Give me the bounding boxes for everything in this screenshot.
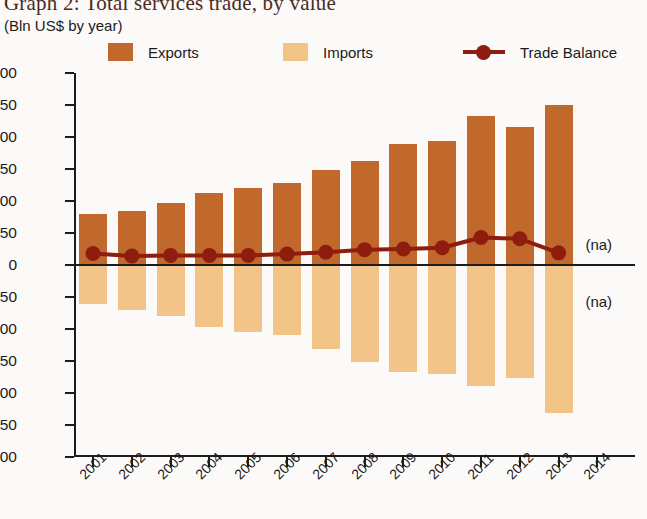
legend-item-exports: Exports (108, 41, 199, 63)
na-annotation-exports: (na) (585, 236, 612, 253)
legend-label: Trade Balance (520, 44, 617, 61)
legend-item-imports: Imports (283, 41, 373, 63)
y-axis-tick-label: −150 (0, 352, 17, 370)
y-axis-tick-label: −50 (0, 288, 17, 306)
trade-balance-point-2011 (474, 230, 489, 245)
y-axis-tick (65, 264, 74, 266)
y-axis-tick-label: 0 (0, 256, 17, 274)
y-axis-tick (65, 200, 74, 202)
trade-balance-point-2008 (357, 242, 372, 257)
trade-balance-point-2013 (551, 245, 566, 260)
y-axis-tick-label: 250 (0, 96, 17, 114)
y-axis-tick-label: −200 (0, 384, 17, 402)
trade-balance-point-2010 (435, 240, 450, 255)
plot-area: 300250200150100500−50−100−150−200−250−30… (74, 73, 602, 457)
y-axis-tick (65, 328, 74, 330)
y-axis-tick (65, 456, 74, 458)
y-axis-tick-label: 100 (0, 192, 17, 210)
y-axis-tick (65, 232, 74, 234)
y-axis-tick-label: 300 (0, 64, 17, 82)
x-axis-line (74, 455, 635, 457)
trade-balance-point-2007 (318, 245, 333, 260)
trade-balance-point-2005 (241, 248, 256, 263)
trade-balance-point-2003 (163, 248, 178, 263)
legend-swatch-icon (283, 43, 308, 61)
na-annotation-imports: (na) (585, 293, 612, 310)
legend-label: Exports (148, 44, 199, 61)
trade-balance-point-2002 (124, 249, 139, 264)
y-axis-tick (65, 104, 74, 106)
chart-figure: Graph 2: Total services trade, by value … (0, 0, 647, 519)
chart-title: Graph 2: Total services trade, by value (4, 0, 336, 16)
y-axis-tick (65, 72, 74, 74)
y-axis-tick (65, 136, 74, 138)
legend-swatch-icon (108, 43, 133, 61)
y-axis-tick-label: −100 (0, 320, 17, 338)
y-axis-tick-label: 200 (0, 128, 17, 146)
chart-legend: ExportsImportsTrade Balance (108, 41, 638, 63)
legend-label: Imports (323, 44, 373, 61)
trade-balance-point-2006 (280, 247, 295, 262)
y-axis-tick-label: −250 (0, 416, 17, 434)
y-axis-tick (65, 424, 74, 426)
trade-balance-point-2009 (396, 242, 411, 257)
y-axis-tick (65, 296, 74, 298)
y-axis-tick (65, 168, 74, 170)
y-axis-tick-label: −300 (0, 448, 17, 466)
y-axis-tick (65, 392, 74, 394)
trade-balance-point-2001 (86, 246, 101, 261)
chart-subtitle: (Bln US$ by year) (4, 17, 122, 34)
legend-line-marker-icon (463, 43, 505, 61)
trade-balance-point-2012 (512, 231, 527, 246)
trade-balance-point-2004 (202, 248, 217, 263)
y-axis-tick-label: 150 (0, 160, 17, 178)
y-axis-tick (65, 360, 74, 362)
y-axis-tick-label: 50 (0, 224, 17, 242)
trade-balance-line (74, 73, 602, 457)
legend-item-trade-balance: Trade Balance (463, 41, 617, 63)
